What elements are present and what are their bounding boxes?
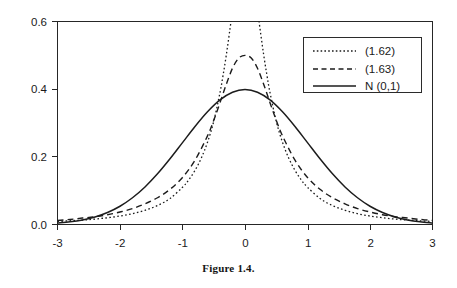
y-tick-label-1: 0.4	[31, 83, 48, 95]
distribution-density-chart: 0.6 0.4 0.2 0.0 -3 -2 -1 0 1 2 3	[0, 0, 457, 288]
curve-group	[58, 0, 433, 223]
figure-caption: Figure 1.4.	[0, 262, 457, 274]
x-tick-label-0: -3	[52, 237, 62, 249]
x-tick-label-4: 1	[305, 237, 311, 249]
y-tick-label-0: 0.6	[31, 16, 47, 28]
curve-normal-0-1-solid	[58, 90, 433, 223]
legend-box	[304, 38, 422, 93]
x-tick-label-6: 3	[429, 237, 435, 249]
x-tick-label-1: -2	[115, 237, 125, 249]
x-axis-tick-labels: -3 -2 -1 0 1 2 3	[52, 237, 435, 249]
legend-label-normal: N (0,1)	[365, 80, 400, 92]
curve-1-62-dotted	[58, 0, 433, 221]
legend-label-1-62: (1.62)	[365, 45, 395, 57]
x-tick-label-5: 2	[368, 237, 374, 249]
y-axis-tick-labels: 0.6 0.4 0.2 0.0	[31, 16, 48, 231]
x-tick-label-2: -1	[178, 237, 188, 249]
y-tick-label-3: 0.0	[31, 219, 47, 231]
legend-label-1-63: (1.63)	[365, 63, 395, 75]
y-tick-label-2: 0.2	[31, 151, 47, 163]
y-axis-ticks	[52, 22, 57, 225]
figure-container: 0.6 0.4 0.2 0.0 -3 -2 -1 0 1 2 3	[0, 0, 457, 288]
x-tick-label-3: 0	[242, 237, 248, 249]
chart-legend[interactable]: (1.62) (1.63) N (0,1)	[304, 38, 422, 93]
